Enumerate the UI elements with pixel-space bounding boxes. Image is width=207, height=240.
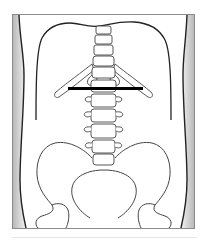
level-marker-line: [68, 87, 143, 90]
caption-divider: [12, 237, 197, 238]
anatomy-figure: [0, 0, 207, 240]
